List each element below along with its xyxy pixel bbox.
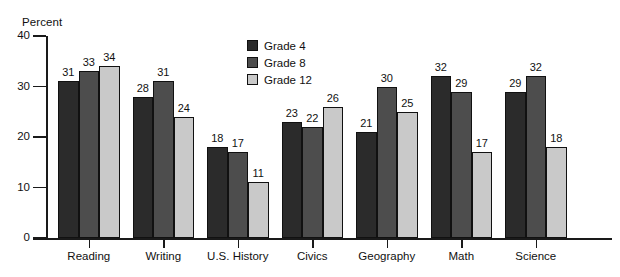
x-tick-label: Civics bbox=[297, 250, 328, 262]
x-tick bbox=[238, 240, 239, 248]
bar bbox=[397, 112, 418, 238]
bar bbox=[302, 127, 323, 238]
y-tick-label: 20 bbox=[0, 130, 30, 142]
bar-value-label: 31 bbox=[157, 66, 169, 78]
legend-item: Grade 4 bbox=[247, 38, 312, 53]
y-tick-label: 10 bbox=[0, 181, 30, 193]
bar bbox=[282, 122, 303, 238]
bar bbox=[377, 87, 398, 239]
x-tick-label: Reading bbox=[67, 250, 110, 262]
bar bbox=[546, 147, 567, 238]
bar-value-label: 18 bbox=[550, 132, 562, 144]
bar-value-label: 26 bbox=[327, 92, 339, 104]
x-tick-label: Science bbox=[515, 250, 556, 262]
bar bbox=[58, 81, 79, 238]
bar-value-label: 11 bbox=[253, 167, 264, 179]
legend-label: Grade 8 bbox=[264, 57, 306, 69]
y-tick-label: 30 bbox=[0, 80, 30, 92]
x-tick bbox=[163, 240, 164, 248]
x-tick bbox=[461, 240, 462, 248]
y-axis-title: Percent bbox=[22, 16, 62, 28]
bar-value-label: 23 bbox=[286, 107, 298, 119]
bar bbox=[248, 182, 269, 238]
legend-item: Grade 8 bbox=[247, 55, 312, 70]
y-tick-label: 40 bbox=[0, 29, 30, 41]
x-tick bbox=[387, 240, 388, 248]
x-tick bbox=[312, 240, 313, 248]
y-axis-line bbox=[46, 36, 48, 239]
legend-item: Grade 12 bbox=[247, 72, 312, 87]
bar-value-label: 22 bbox=[306, 112, 318, 124]
bar bbox=[207, 147, 228, 238]
legend: Grade 4Grade 8Grade 12 bbox=[247, 38, 312, 89]
bar bbox=[133, 97, 154, 238]
bar bbox=[323, 107, 344, 238]
bar-value-label: 32 bbox=[530, 61, 542, 73]
legend-swatch-icon bbox=[247, 40, 258, 51]
cut-off-caption bbox=[0, 0, 620, 3]
bar-chart: Percent 010203040 ReadingWritingU.S. His… bbox=[0, 0, 620, 277]
bar bbox=[431, 76, 452, 238]
bar-value-label: 25 bbox=[401, 97, 413, 109]
bar bbox=[472, 152, 493, 238]
y-tick bbox=[33, 35, 46, 36]
x-tick-label: Writing bbox=[145, 250, 181, 262]
bar-value-label: 34 bbox=[103, 51, 115, 63]
bar-value-label: 31 bbox=[62, 66, 74, 78]
y-tick-label: 0 bbox=[0, 231, 30, 243]
bar bbox=[153, 81, 174, 238]
bar-value-label: 17 bbox=[476, 137, 488, 149]
bar-value-label: 21 bbox=[360, 117, 372, 129]
bar-value-label: 29 bbox=[509, 77, 521, 89]
legend-label: Grade 4 bbox=[264, 40, 306, 52]
bar bbox=[505, 92, 526, 238]
x-tick bbox=[89, 240, 90, 248]
bar bbox=[79, 71, 100, 238]
y-tick bbox=[33, 86, 46, 87]
legend-label: Grade 12 bbox=[264, 74, 312, 86]
bar-value-label: 33 bbox=[83, 56, 95, 68]
y-tick bbox=[33, 136, 46, 137]
y-tick bbox=[33, 237, 46, 238]
bar bbox=[451, 92, 472, 238]
bar bbox=[99, 66, 120, 238]
bar-value-label: 17 bbox=[232, 137, 244, 149]
x-tick-label: U.S. History bbox=[207, 250, 268, 262]
x-tick-label: Math bbox=[448, 250, 474, 262]
legend-swatch-icon bbox=[247, 74, 258, 85]
bar-value-label: 29 bbox=[455, 77, 467, 89]
bar-value-label: 32 bbox=[435, 61, 447, 73]
x-tick bbox=[536, 240, 537, 248]
bar bbox=[356, 132, 377, 238]
y-tick bbox=[33, 187, 46, 188]
bar bbox=[228, 152, 249, 238]
bar-value-label: 30 bbox=[381, 72, 393, 84]
x-axis-line bbox=[33, 238, 612, 240]
bar-value-label: 24 bbox=[178, 102, 190, 114]
bar bbox=[526, 76, 547, 238]
legend-swatch-icon bbox=[247, 57, 258, 68]
bar-value-label: 28 bbox=[137, 82, 149, 94]
x-tick-label: Geography bbox=[358, 250, 415, 262]
bar-value-label: 18 bbox=[211, 132, 223, 144]
bar bbox=[174, 117, 195, 238]
